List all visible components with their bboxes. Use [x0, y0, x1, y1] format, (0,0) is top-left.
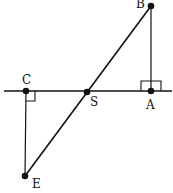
- segment-ce: [25, 91, 26, 176]
- point-a: [148, 88, 155, 95]
- diagram-canvas: [0, 0, 173, 193]
- label-s: S: [90, 96, 98, 108]
- geometry-diagram: B A C S E: [0, 0, 173, 193]
- point-e: [22, 173, 29, 180]
- label-e: E: [32, 178, 41, 190]
- point-c: [23, 88, 30, 95]
- label-b: B: [136, 0, 145, 10]
- label-a: A: [146, 99, 155, 111]
- label-c: C: [22, 74, 31, 86]
- point-b: [148, 3, 155, 10]
